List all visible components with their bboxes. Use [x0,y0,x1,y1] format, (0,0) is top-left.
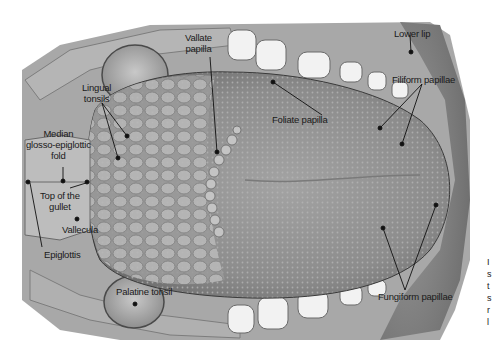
label-line: Epiglottis [44,249,81,260]
label-epiglottis: Epiglottis [44,249,81,260]
label-line: tonsils [82,93,111,104]
side-fragment: r [487,304,492,316]
side-fragment: s [487,268,492,280]
label-line: Fungiform papillae [378,291,453,302]
tongue-illustration [0,0,497,362]
side-fragment: l [487,316,492,328]
side-fragment: s [487,292,492,304]
label-lingual-tonsils: Lingual tonsils [82,82,111,104]
label-line: Median [26,128,91,139]
label-line: Palatine tonsil [116,286,172,297]
label-vallate-papilla: Vallate papilla [185,32,212,54]
side-fragment: t [487,280,492,292]
label-line: papilla [185,43,212,54]
tongue-anatomy-figure: Vallate papilla Lower lip Lingual tonsil… [0,0,497,362]
label-line: glosso-epiglottic [26,139,91,150]
label-line: gullet [40,201,80,212]
label-foliate-papilla: Foliate papilla [272,114,328,125]
cropped-side-text: I s t s r l [487,256,492,328]
label-line: Lingual [82,82,111,93]
lingual-tonsil-region [87,75,225,284]
side-fragment: I [487,256,492,268]
label-top-of-the-gullet: Top of the gullet [40,190,80,212]
label-line: Vallate [185,32,212,43]
label-line: Top of the [40,190,80,201]
label-palatine-tonsil: Palatine tonsil [116,286,172,297]
label-fungiform-papillae: Fungiform papillae [378,291,453,302]
label-vallecula: Vallecula [62,224,98,235]
label-line: Lower lip [394,28,430,39]
label-line: fold [26,150,91,161]
label-line: Vallecula [62,224,98,235]
label-filiform-papillae: Filiform papillae [392,74,455,85]
label-lower-lip: Lower lip [394,28,430,39]
label-line: Filiform papillae [392,74,455,85]
label-line: Foliate papilla [272,114,328,125]
label-median-glosso-epiglottic-fold: Median glosso-epiglottic fold [26,128,91,161]
